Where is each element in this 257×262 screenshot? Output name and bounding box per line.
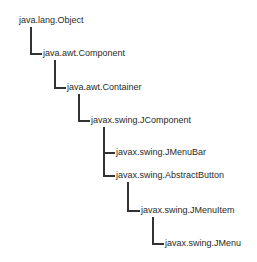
connector-component-container-h	[54, 87, 66, 89]
node-javax-swing-jmenuitem: javax.swing.JMenuItem	[141, 205, 235, 216]
connector-object-component-h	[30, 53, 42, 55]
node-javax-swing-abstractbutton: javax.swing.AbstractButton	[116, 170, 224, 181]
connector-abstractbutton-jmenuitem	[127, 182, 129, 211]
connector-jmenuitem-jmenu-h	[152, 243, 164, 245]
connector-abstractbutton-jmenuitem-h	[127, 210, 140, 212]
connector-component-container	[54, 60, 56, 88]
node-java-awt-container: java.awt.Container	[67, 82, 142, 93]
node-java-lang-object: java.lang.Object	[19, 15, 84, 26]
connector-object-component	[30, 27, 32, 54]
node-javax-swing-jcomponent: javax.swing.JComponent	[91, 115, 191, 126]
connector-jmenuitem-jmenu	[152, 217, 154, 244]
connector-container-jcomponent-h	[78, 120, 90, 122]
connector-jcomponent-jmenubar-h	[103, 152, 115, 154]
node-java-awt-component: java.awt.Component	[43, 48, 125, 59]
connector-container-jcomponent	[78, 94, 80, 121]
connector-jcomponent-abstractbutton-h	[103, 175, 115, 177]
node-javax-swing-jmenu: javax.swing.JMenu	[165, 238, 241, 249]
node-javax-swing-jmenubar: javax.swing.JMenuBar	[116, 147, 206, 158]
